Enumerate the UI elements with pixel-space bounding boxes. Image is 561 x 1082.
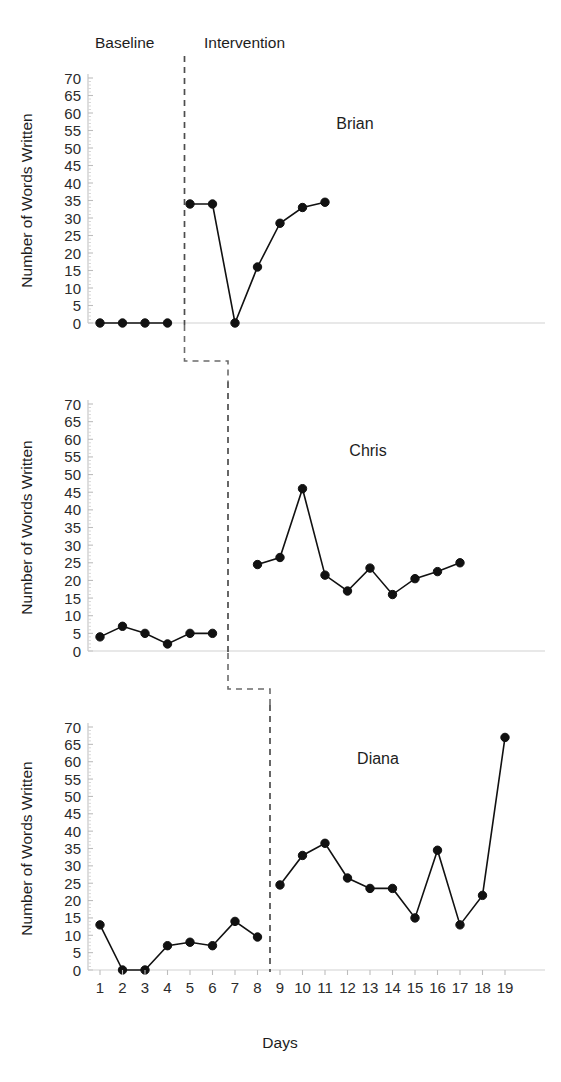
y-tick-label: 15 [64,590,81,607]
data-point [433,567,441,575]
y-tick-label: 60 [64,431,81,448]
data-point [163,942,171,950]
x-tick-label: 1 [96,979,104,996]
y-tick-label: 5 [73,944,81,961]
x-tick-label: 5 [186,979,194,996]
y-tick-label: 55 [64,771,81,788]
data-point [186,629,194,637]
y-tick-label: 70 [64,396,81,413]
data-point [231,319,239,327]
y-tick-label: 35 [64,519,81,536]
data-point [456,921,464,929]
y-tick-label: 15 [64,262,81,279]
data-point [141,319,149,327]
y-tick-label: 60 [64,105,81,122]
y-tick-label: 20 [64,245,81,262]
y-tick-label: 0 [73,962,81,979]
y-tick-label: 10 [64,280,81,297]
x-tick-label: 19 [497,979,514,996]
data-point [411,914,419,922]
chart-canvas: Baseline Intervention Number of Words Wr… [0,0,561,1082]
data-point [253,263,261,271]
x-tick-label: 14 [384,979,401,996]
y-axis-title: Number of Words Written [18,113,35,287]
data-point [231,917,239,925]
y-tick-label: 10 [64,927,81,944]
data-point [433,846,441,854]
y-tick-label: 15 [64,909,81,926]
x-tick-label: 9 [276,979,284,996]
data-point [321,839,329,847]
y-tick-label: 35 [64,192,81,209]
y-tick-label: 25 [64,875,81,892]
phase-header-baseline: Baseline [95,34,154,51]
x-tick-label: 12 [339,979,356,996]
y-tick-label: 65 [64,87,81,104]
y-tick-label: 65 [64,413,81,430]
x-tick-label: 15 [407,979,424,996]
x-tick-label: 4 [163,979,171,996]
y-tick-label: 40 [64,175,81,192]
data-point [186,200,194,208]
data-point [208,942,216,950]
y-tick-label: 70 [64,719,81,736]
y-tick-label: 55 [64,448,81,465]
data-point [298,484,306,492]
y-tick-label: 30 [64,210,81,227]
data-point [321,198,329,206]
y-tick-label: 0 [73,315,81,332]
data-point [276,553,284,561]
multiple-baseline-figure: Baseline Intervention Number of Words Wr… [0,0,561,1082]
data-point [96,319,104,327]
y-tick-label: 25 [64,554,81,571]
phase-header-intervention: Intervention [204,34,285,51]
y-axis-title: Number of Words Written [18,761,35,935]
data-point [343,874,351,882]
data-point [321,571,329,579]
x-tick-label: 18 [474,979,491,996]
data-point [118,622,126,630]
y-tick-label: 40 [64,501,81,518]
x-tick-label: 6 [208,979,216,996]
data-point [186,938,194,946]
x-tick-label: 2 [118,979,126,996]
y-tick-label: 50 [64,788,81,805]
y-tick-label: 30 [64,857,81,874]
data-point [298,851,306,859]
data-point [253,933,261,941]
data-point [96,633,104,641]
x-tick-label: 16 [429,979,446,996]
data-point [163,640,171,648]
data-point [478,891,486,899]
data-point [366,884,374,892]
data-point [163,319,171,327]
y-tick-label: 45 [64,484,81,501]
data-point [388,884,396,892]
data-point [456,559,464,567]
data-point [208,629,216,637]
y-tick-label: 50 [64,466,81,483]
y-axis-titles: Number of Words WrittenNumber of Words W… [18,113,35,935]
y-tick-label: 45 [64,157,81,174]
data-point [96,921,104,929]
y-tick-label: 5 [73,297,81,314]
x-tick-label: 11 [317,979,333,996]
panel-title-brian: Brian [336,115,373,132]
y-tick-label: 55 [64,122,81,139]
data-point [208,200,216,208]
data-point [141,629,149,637]
data-point [276,219,284,227]
y-tick-label: 25 [64,227,81,244]
data-point [411,574,419,582]
x-tick-label: 3 [141,979,149,996]
y-tick-label: 0 [73,643,81,660]
y-tick-label: 65 [64,736,81,753]
y-tick-label: 20 [64,892,81,909]
y-tick-label: 20 [64,572,81,589]
data-point [253,560,261,568]
panel-title-chris: Chris [349,442,386,459]
panel-title-diana: Diana [357,750,399,767]
x-tick-label: 10 [294,979,311,996]
data-point [298,203,306,211]
y-tick-label: 50 [64,140,81,157]
